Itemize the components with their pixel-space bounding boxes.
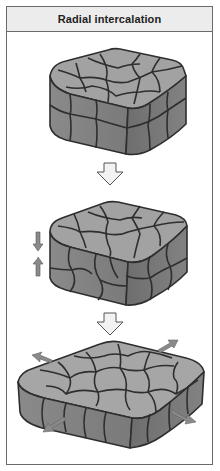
arrow-down-icon: [33, 232, 43, 251]
arrow-up-left-icon: [32, 352, 52, 363]
radial-intercalation-diagram: [0, 0, 220, 471]
stage-intercalating-block: [50, 202, 187, 305]
arrow-up-icon: [33, 257, 43, 276]
stage-two-layer-block: [50, 49, 186, 155]
down-arrow-icon: [97, 313, 123, 335]
down-arrow-icon: [97, 163, 123, 185]
vertical-movement-arrows: [33, 232, 43, 276]
arrow-up-right-icon: [158, 340, 178, 353]
